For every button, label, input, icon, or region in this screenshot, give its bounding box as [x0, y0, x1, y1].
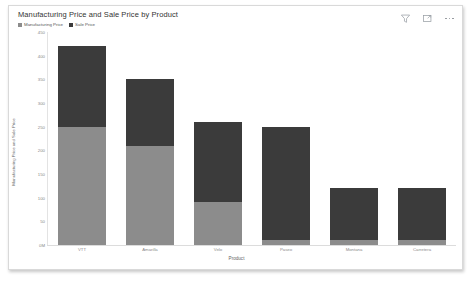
bar-slot	[320, 32, 388, 245]
y-axis-title: Manufacturing Price and Sale Price	[11, 118, 16, 185]
stacked-bar[interactable]	[330, 188, 378, 245]
stacked-bar[interactable]	[194, 122, 242, 245]
bar-segment-sale-price[interactable]	[194, 122, 242, 202]
bar-slot	[388, 32, 456, 245]
y-axis-tick-label: 100	[38, 195, 45, 200]
bar-segment-manufacturing-price[interactable]	[262, 240, 310, 245]
x-axis-tick-label: Carretera	[388, 247, 456, 252]
bar-segment-sale-price[interactable]	[398, 188, 446, 240]
bar-segment-manufacturing-price[interactable]	[330, 240, 378, 245]
x-axis-tick-labels: VTTAmarillaVeloPaseoMontanaCarretera	[48, 247, 456, 252]
bar-slot	[116, 32, 184, 245]
legend-swatch-sale-price	[69, 23, 73, 27]
x-axis-line	[47, 245, 456, 246]
bar-segment-manufacturing-price[interactable]	[194, 202, 242, 245]
filter-icon[interactable]	[399, 12, 412, 25]
stacked-bar[interactable]	[126, 79, 174, 245]
y-axis-tick-label: 150	[38, 172, 45, 177]
bar-slot	[48, 32, 116, 245]
bar-segment-sale-price[interactable]	[58, 46, 106, 126]
chart-legend: Manufacturing Price Sale Price	[18, 22, 95, 27]
y-axis-ticks: 0M50100150200250300350400450	[21, 32, 47, 245]
legend-label-sale-price: Sale Price	[75, 22, 95, 27]
bar-segment-sale-price[interactable]	[262, 127, 310, 241]
y-axis-tick-label: 50	[40, 219, 45, 224]
y-axis-tick-label: 200	[38, 148, 45, 153]
legend-item-manufacturing-price[interactable]: Manufacturing Price	[18, 22, 63, 27]
stacked-bar[interactable]	[262, 127, 310, 245]
bar-segment-manufacturing-price[interactable]	[58, 127, 106, 245]
bar-series-container	[48, 32, 456, 245]
stacked-bar[interactable]	[58, 46, 106, 245]
more-options-icon[interactable]	[443, 12, 456, 25]
bar-segment-sale-price[interactable]	[330, 188, 378, 240]
bar-segment-manufacturing-price[interactable]	[126, 146, 174, 245]
page-title: Manufacturing Price and Sale Price by Pr…	[18, 10, 178, 19]
visual-card: Manufacturing Price and Sale Price by Pr…	[8, 5, 463, 270]
legend-swatch-manufacturing-price	[18, 23, 22, 27]
y-axis-tick-label: 300	[38, 101, 45, 106]
legend-label-manufacturing-price: Manufacturing Price	[24, 22, 63, 27]
visual-toolbar	[399, 12, 456, 25]
legend-item-sale-price[interactable]: Sale Price	[69, 22, 95, 27]
x-axis-title: Product	[9, 256, 464, 261]
y-axis-tick-label: 450	[38, 30, 45, 35]
bar-slot	[184, 32, 252, 245]
bar-slot	[252, 32, 320, 245]
chart-plot-area: Manufacturing Price and Sale Price 0M501…	[9, 32, 464, 271]
focus-mode-icon[interactable]	[421, 12, 434, 25]
y-axis-tick-label: 250	[38, 124, 45, 129]
x-axis-tick-label: Amarilla	[116, 247, 184, 252]
x-axis-tick-label: VTT	[48, 247, 116, 252]
x-axis-tick-label: Montana	[320, 247, 388, 252]
x-axis-tick-label: Paseo	[252, 247, 320, 252]
ellipsis-glyph	[445, 18, 453, 20]
x-axis-tick-label: Velo	[184, 247, 252, 252]
y-axis-tick-label: 0M	[39, 243, 45, 248]
bar-segment-manufacturing-price[interactable]	[398, 240, 446, 245]
stacked-bar[interactable]	[398, 188, 446, 245]
y-axis-tick-label: 400	[38, 53, 45, 58]
bar-segment-sale-price[interactable]	[126, 79, 174, 145]
y-axis-tick-label: 350	[38, 77, 45, 82]
